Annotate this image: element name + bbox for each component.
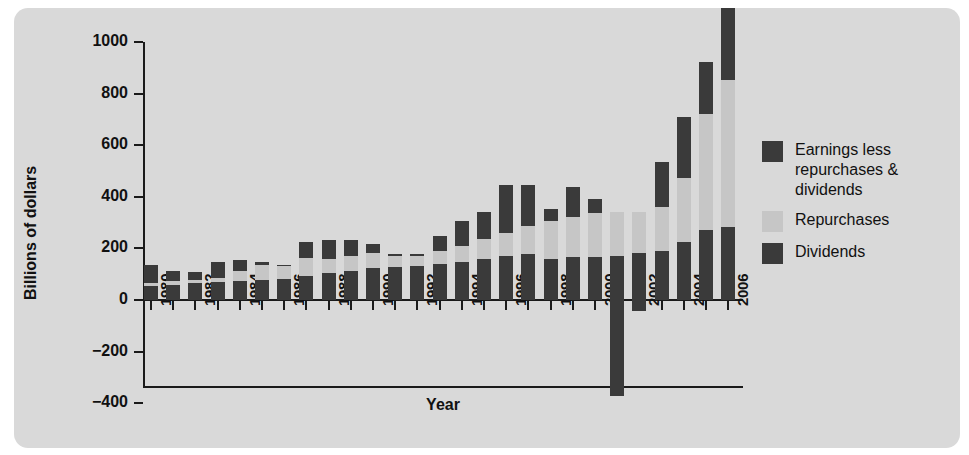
bar-segment-dividends: [499, 256, 513, 300]
bar-segment-earnings: [544, 209, 558, 221]
bar-segment-dividends: [255, 280, 269, 300]
x-tick-label: 2006: [734, 274, 751, 306]
bar-segment-earnings-negative: [610, 300, 624, 396]
y-tick-label: 800: [68, 85, 128, 101]
legend-swatch-repurchases-icon: [762, 211, 783, 232]
y-tick-label: 400: [68, 188, 128, 204]
bar-segment-dividends: [521, 254, 535, 300]
x-tick: [172, 301, 174, 310]
x-tick: [350, 301, 352, 310]
bar-segment-dividends: [277, 279, 291, 300]
chart-figure: 10008006004002000−200−400 19801982198419…: [0, 0, 969, 455]
bar-segment-repurchases: [344, 256, 358, 271]
legend-label-earnings: Earnings less repurchases & dividends: [795, 140, 962, 200]
bar-segment-earnings: [588, 199, 602, 212]
x-tick: [239, 301, 241, 310]
bar-segment-repurchases: [166, 281, 180, 284]
bar-segment-earnings: [299, 242, 313, 258]
bar-segment-earnings: [677, 117, 691, 178]
y-tick: [134, 93, 143, 95]
y-tick-label: 1000: [68, 33, 128, 49]
bar-segment-dividends: [366, 268, 380, 300]
bar-segment-repurchases: [588, 213, 602, 257]
bar-segment-repurchases: [322, 259, 336, 273]
bar-segment-earnings: [410, 254, 424, 257]
bar-segment-repurchases: [699, 114, 713, 230]
bar-segment-repurchases: [632, 212, 646, 253]
y-tick-label: 600: [68, 136, 128, 152]
bar-segment-earnings: [255, 262, 269, 265]
bar-segment-dividends: [388, 267, 402, 300]
y-tick-label: −400: [68, 394, 128, 410]
x-tick: [150, 301, 152, 310]
bar-segment-earnings-negative: [632, 300, 646, 311]
x-tick: [416, 301, 418, 310]
x-tick: [328, 301, 330, 310]
bar-segment-dividends: [344, 271, 358, 300]
bar-segment-repurchases: [366, 253, 380, 268]
bar-segment-repurchases: [677, 178, 691, 242]
bar-segment-repurchases: [610, 212, 624, 256]
bar-segment-earnings: [277, 265, 291, 266]
bar-segment-repurchases: [521, 226, 535, 254]
legend-item-repurchases: Repurchases: [762, 210, 962, 232]
x-tick: [594, 301, 596, 310]
bar-segment-repurchases: [233, 271, 247, 281]
bar-segment-repurchases: [410, 256, 424, 266]
legend-swatch-dividends-icon: [762, 243, 783, 264]
bar-segment-dividends: [166, 285, 180, 300]
bar-segment-repurchases: [277, 266, 291, 279]
y-tick: [134, 41, 143, 43]
bar-segment-earnings: [566, 187, 580, 217]
x-tick: [305, 301, 307, 310]
bar-segment-dividends: [322, 273, 336, 300]
bar-segment-earnings: [455, 221, 469, 246]
bar-segment-repurchases: [144, 283, 158, 286]
x-tick: [261, 301, 263, 310]
y-tick-label: 0: [68, 291, 128, 307]
bar-segment-dividends: [433, 264, 447, 300]
x-tick: [505, 301, 507, 310]
bar-segment-dividends: [299, 276, 313, 300]
x-tick: [705, 301, 707, 310]
bar-segment-dividends: [144, 286, 158, 300]
x-tick: [527, 301, 529, 310]
bar-segment-dividends: [410, 266, 424, 300]
bar-segment-dividends: [188, 283, 202, 300]
bar-segment-earnings: [366, 244, 380, 253]
bar-segment-earnings: [188, 272, 202, 279]
x-tick: [217, 301, 219, 310]
bar-segment-dividends: [677, 242, 691, 300]
bar-segment-dividends: [655, 251, 669, 300]
bar-segment-repurchases: [455, 246, 469, 262]
bar-segment-repurchases: [388, 256, 402, 267]
bar-segment-dividends: [610, 256, 624, 300]
bar-segment-dividends: [455, 262, 469, 300]
bar-segment-repurchases: [211, 278, 225, 283]
bar-segment-dividends: [211, 282, 225, 300]
y-tick: [134, 247, 143, 249]
x-tick: [727, 301, 729, 310]
bar-segment-earnings: [477, 212, 491, 240]
bar-segment-earnings: [655, 162, 669, 206]
bar-segment-repurchases: [655, 207, 669, 251]
x-axis-title: Year: [143, 396, 743, 414]
y-axis-line: [143, 42, 145, 388]
y-tick: [134, 144, 143, 146]
bar-segment-earnings: [721, 8, 735, 80]
x-tick: [439, 301, 441, 310]
x-tick: [461, 301, 463, 310]
bar-segment-earnings: [233, 260, 247, 271]
bar-segment-earnings: [144, 265, 158, 283]
bar-segment-repurchases: [544, 221, 558, 259]
bar-segment-repurchases: [433, 251, 447, 263]
bar-segment-repurchases: [477, 239, 491, 258]
x-tick: [683, 301, 685, 310]
bar-segment-dividends: [233, 281, 247, 300]
bar-segment-earnings: [521, 185, 535, 226]
y-tick: [134, 196, 143, 198]
bar-segment-dividends: [477, 259, 491, 300]
chart-legend: Earnings less repurchases & dividends Re…: [762, 140, 962, 274]
bar-segment-dividends: [699, 230, 713, 300]
x-tick: [194, 301, 196, 310]
